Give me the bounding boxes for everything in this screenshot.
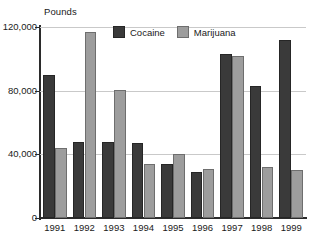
x-axis-tick-label: 1997 bbox=[217, 222, 247, 233]
bar-cocaine-1996 bbox=[191, 172, 203, 218]
x-axis-tick-label: 1999 bbox=[276, 222, 306, 233]
bar-cocaine-1999 bbox=[279, 40, 291, 218]
plot-area bbox=[40, 27, 306, 218]
chart-legend: CocaineMarijuana bbox=[113, 26, 236, 38]
bar-group bbox=[279, 27, 303, 218]
bar-group bbox=[102, 27, 126, 218]
marijuana-swatch-icon bbox=[177, 26, 189, 38]
bar-marijuana-1994 bbox=[144, 164, 156, 218]
bar-group bbox=[73, 27, 97, 218]
bar-cocaine-1991 bbox=[43, 75, 55, 218]
bar-marijuana-1995 bbox=[173, 154, 185, 218]
bar-cocaine-1992 bbox=[73, 142, 85, 218]
legend-label: Marijuana bbox=[194, 27, 236, 38]
cocaine-swatch-icon bbox=[113, 26, 125, 38]
y-axis-tick-label: 40,000 bbox=[1, 148, 37, 159]
x-axis-tick-label: 1993 bbox=[99, 222, 129, 233]
y-axis-unit-label: Pounds bbox=[44, 6, 77, 17]
y-axis-tick-labels: 040,00080,000120,000 bbox=[0, 0, 37, 247]
bar-cocaine-1995 bbox=[161, 164, 173, 218]
bar-chart: Pounds 040,00080,000120,000 199119921993… bbox=[0, 0, 312, 247]
bar-group bbox=[220, 27, 244, 218]
x-axis-tick-label: 1995 bbox=[158, 222, 188, 233]
bar-marijuana-1992 bbox=[85, 32, 97, 218]
bar-group bbox=[132, 27, 156, 218]
bar-marijuana-1997 bbox=[232, 56, 244, 218]
bar-group bbox=[250, 27, 274, 218]
x-axis-tick-label: 1998 bbox=[247, 222, 277, 233]
x-axis-tick-label: 1996 bbox=[188, 222, 218, 233]
x-axis-tick-label: 1994 bbox=[129, 222, 159, 233]
legend-entry-marijuana[interactable]: Marijuana bbox=[177, 26, 236, 38]
legend-entry-cocaine[interactable]: Cocaine bbox=[113, 26, 165, 38]
y-axis-tick-label: 80,000 bbox=[1, 85, 37, 96]
bar-group bbox=[191, 27, 215, 218]
x-axis-tick-labels: 199119921993199419951996199719981999 bbox=[40, 222, 306, 242]
bar-cocaine-1997 bbox=[220, 54, 232, 218]
bar-marijuana-1998 bbox=[262, 167, 274, 218]
bar-marijuana-1996 bbox=[203, 169, 215, 218]
bar-cocaine-1998 bbox=[250, 86, 262, 218]
bar-marijuana-1993 bbox=[114, 90, 126, 218]
bar-cocaine-1994 bbox=[132, 143, 144, 218]
bar-cocaine-1993 bbox=[102, 142, 114, 218]
y-axis-tick-label: 0 bbox=[1, 212, 37, 223]
bar-marijuana-1999 bbox=[291, 170, 303, 218]
x-axis-tick-label: 1991 bbox=[40, 222, 70, 233]
legend-label: Cocaine bbox=[130, 27, 165, 38]
bar-marijuana-1991 bbox=[55, 148, 67, 218]
bar-group bbox=[43, 27, 67, 218]
x-axis-tick-label: 1992 bbox=[70, 222, 100, 233]
bar-group bbox=[161, 27, 185, 218]
y-axis-tick-label: 120,000 bbox=[1, 21, 37, 32]
